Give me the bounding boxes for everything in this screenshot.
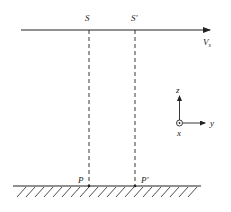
x-axis-dot xyxy=(179,122,181,124)
ground-hatching xyxy=(17,187,197,197)
label-z-axis: z xyxy=(175,85,180,95)
label-x-axis: x xyxy=(176,128,181,138)
label-s-prime: S' xyxy=(131,13,139,23)
label-y-axis: y xyxy=(209,118,214,128)
velocity-subscript: s xyxy=(209,42,212,48)
diagram-canvas: S S' Vs P P' xyxy=(0,0,231,212)
label-s: S xyxy=(85,13,90,23)
label-p: P xyxy=(77,175,84,185)
label-velocity: Vs xyxy=(203,37,212,48)
label-p-prime: P' xyxy=(140,175,149,185)
coordinate-system: z y x xyxy=(175,85,214,138)
